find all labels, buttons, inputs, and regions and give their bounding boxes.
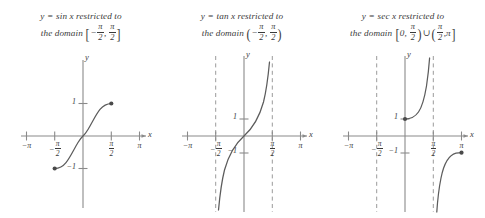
x-tick-pi-over-2-sin: π2 <box>101 140 122 157</box>
axis-label-y-sec: y <box>407 49 411 59</box>
panel-tan: y = tan x restricted to the domain (−π2,… <box>161 0 323 218</box>
panel-sin: y = sin x restricted to the domain [−π2,… <box>0 0 162 218</box>
seg1-right-frac-sec: π2 <box>410 23 416 42</box>
caption-sec-lead: the domain <box>350 28 392 38</box>
seg2-right-sec: π <box>446 28 451 38</box>
caption-tan-line1: y = tan x restricted to <box>161 9 323 23</box>
axis-label-y-sin: y <box>85 52 89 62</box>
caption-sin-line2: the domain [−π2, π2] <box>0 23 162 46</box>
x-tick-pi-over-2-sec: π2 <box>423 140 444 157</box>
seg2-left-frac-sec: π2 <box>437 23 443 42</box>
bracket-open-tan: ( <box>247 23 251 46</box>
x-tick-neg-pi-over-2-sin: −π2 <box>42 140 68 157</box>
axis-label-y-tan: y <box>246 49 250 59</box>
x-tick-pi-tan: π <box>291 141 310 150</box>
bracket-close-sin: ] <box>117 23 121 46</box>
caption-sin-rhs: sin x restricted to <box>56 11 122 21</box>
caption-tan-lhs: y <box>201 11 205 21</box>
union-symbol-sec: ∪ <box>422 28 432 38</box>
y-tick-neg1-sin: −1 <box>58 162 76 171</box>
interval-left-sign-tan: − <box>251 28 257 38</box>
bracket-open-sin: [ <box>86 23 90 46</box>
caption-tan: y = tan x restricted to the domain (−π2,… <box>161 9 323 47</box>
axis-label-x-tan: x <box>309 129 313 139</box>
caption-sin: y = sin x restricted to the domain [−π2,… <box>0 9 162 47</box>
x-tick-pi-over-2-tan: π2 <box>262 140 283 157</box>
interval-sep-sin: , <box>104 28 106 38</box>
y-tick-1-sec: 1 <box>384 112 398 121</box>
panel-sec: y = sec x restricted to the domain [0, π… <box>322 0 484 218</box>
interval-left-sign-sin: − <box>90 28 96 38</box>
caption-sec: y = sec x restricted to the domain [0, π… <box>322 9 484 47</box>
axis-label-x-sec: x <box>470 129 474 139</box>
plot-sin: y x 1 −1 −π −π2 π2 π <box>0 50 162 218</box>
paren-open-sec-2: ( <box>432 23 436 46</box>
caption-sec-line2: the domain [0, π2)∪(π2,π] <box>322 23 484 46</box>
caption-sin-line1: y = sin x restricted to <box>0 9 162 23</box>
caption-sec-eq: = <box>368 11 375 21</box>
x-tick-pi-sec: π <box>452 141 471 150</box>
interval-left-frac-tan: π2 <box>258 23 264 42</box>
caption-sec-line1: y = sec x restricted to <box>322 9 484 23</box>
x-tick-pi-sin: π <box>130 141 149 150</box>
caption-tan-lead: the domain <box>202 28 244 38</box>
paren-close-sec-1: ) <box>417 23 421 46</box>
plot-sec: y x 1 −1 −π −π2 π2 π <box>322 50 484 218</box>
x-tick-neg-pi-sec: −π <box>338 141 359 150</box>
y-tick-1-sin: 1 <box>62 97 76 106</box>
y-tick-1-tan: 1 <box>223 112 237 121</box>
caption-sin-lhs: y <box>40 11 44 21</box>
caption-sin-eq: = <box>47 11 54 21</box>
x-tick-neg-pi-over-2-tan: −π2 <box>203 140 229 157</box>
interval-sep-tan: , <box>265 28 267 38</box>
interval-right-frac-sin: π2 <box>109 23 115 42</box>
caption-tan-line2: the domain (−π2, π2) <box>161 23 323 46</box>
caption-sin-lead: the domain <box>41 28 83 38</box>
x-tick-neg-pi-sin: −π <box>16 141 37 150</box>
interval-sep-sec-1: , <box>404 28 406 38</box>
caption-sec-lhs: y <box>362 11 366 21</box>
bracket-open-sec: [ <box>395 23 399 46</box>
caption-tan-rhs: tan x restricted to <box>217 11 284 21</box>
bracket-close-sec: ] <box>451 23 455 46</box>
interval-right-frac-tan: π2 <box>270 23 276 42</box>
x-tick-neg-pi-over-2-sec: −π2 <box>364 140 390 157</box>
bracket-close-tan: ) <box>278 23 282 46</box>
caption-sec-rhs: sec x restricted to <box>378 11 445 21</box>
caption-tan-eq: = <box>207 11 214 21</box>
interval-left-frac-sin: π2 <box>97 23 103 42</box>
plot-tan: y x 1 −1 −π −π2 π2 π <box>161 50 323 218</box>
axis-label-x-sin: x <box>148 129 152 139</box>
trig-restricted-domains-figure: y = sin x restricted to the domain [−π2,… <box>0 0 485 218</box>
x-tick-neg-pi-tan: −π <box>177 141 198 150</box>
